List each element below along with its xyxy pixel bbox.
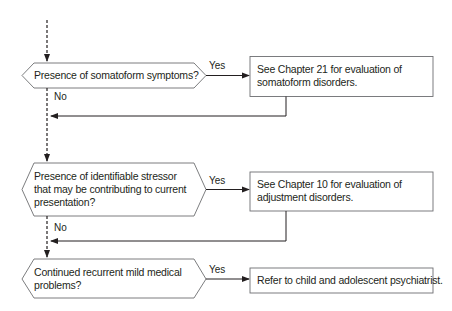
flowchart-canvas xyxy=(0,0,452,311)
outcome-text-3: Refer to child and adolescent psychiatri… xyxy=(257,274,443,287)
yes-label-2: Yes xyxy=(209,175,225,187)
decision-2-line-2: that may be contributing to current xyxy=(34,183,186,196)
outcome-1-line-1: See Chapter 21 for evaluation of xyxy=(257,63,402,76)
no-label-1: No xyxy=(54,91,67,103)
decision-3-line-2: problems? xyxy=(34,279,182,292)
decision-text-1: Presence of somatoform symptoms? xyxy=(34,69,199,82)
decision-3-line-1: Continued recurrent mild medical xyxy=(34,266,182,279)
no-label-2: No xyxy=(54,222,67,234)
outcome-3-line-1: Refer to child and adolescent psychiatri… xyxy=(257,274,443,287)
decision-text-3: Continued recurrent mild medical problem… xyxy=(34,266,182,292)
decision-2-line-1: Presence of identifiable stressor xyxy=(34,170,186,183)
yes-label-1: Yes xyxy=(209,60,225,72)
decision-1-line-1: Presence of somatoform symptoms? xyxy=(34,69,199,82)
decision-text-2: Presence of identifiable stressor that m… xyxy=(34,170,186,209)
outcome-2-line-1: See Chapter 10 for evaluation of xyxy=(257,178,402,191)
outcome-text-2: See Chapter 10 for evaluation of adjustm… xyxy=(257,178,402,204)
decision-2-line-3: presentation? xyxy=(34,196,186,209)
outcome-1-line-2: somatoform disorders. xyxy=(257,76,402,89)
return-connector-1 xyxy=(51,97,286,117)
yes-label-3: Yes xyxy=(209,264,225,276)
outcome-2-line-2: adjustment disorders. xyxy=(257,191,402,204)
outcome-text-1: See Chapter 21 for evaluation of somatof… xyxy=(257,63,402,89)
